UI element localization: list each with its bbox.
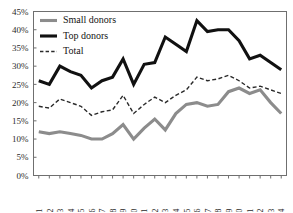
- y-axis-tick-label: 15%: [12, 116, 29, 126]
- line-chart: 0%5%10%15%20%25%30%35%40%45% 19811982198…: [0, 0, 293, 212]
- x-axis-tick-label: 1990: [130, 209, 139, 213]
- series-line-total: [39, 75, 281, 115]
- series-line-small-donors: [39, 88, 281, 139]
- x-axis-tick-label: 1984: [67, 208, 76, 212]
- chart-legend: Small donorsTop donorsTotal: [40, 14, 116, 56]
- x-axis-tick-label: 1992: [151, 209, 160, 213]
- x-axis-tick-label: 1999: [225, 209, 234, 213]
- x-axis-tick-label: 1995: [183, 209, 192, 213]
- y-axis-tick-label: 40%: [12, 25, 29, 35]
- x-axis-tick-label: 1996: [193, 209, 202, 213]
- y-axis-tick-label: 10%: [12, 134, 29, 144]
- x-axis-tick-label: 1989: [119, 209, 128, 213]
- x-axis-tick-label: 2000: [235, 209, 244, 213]
- chart-container: 0%5%10%15%20%25%30%35%40%45% 19811982198…: [0, 0, 293, 212]
- x-axis-tick-label: 1993: [161, 209, 170, 213]
- x-axis-tick-label: 1983: [56, 209, 65, 213]
- x-axis-tick-label: 1982: [46, 209, 55, 213]
- x-axis-tick-label: 1988: [109, 209, 118, 213]
- x-axis-tick-label: 1985: [77, 209, 86, 213]
- y-axis-tick-label: 30%: [12, 61, 29, 71]
- x-axis-tick-label: 1994: [172, 208, 181, 212]
- y-axis-tick-label: 20%: [12, 98, 29, 108]
- legend-label-small-donors: Small donors: [63, 14, 116, 25]
- x-axis-tick-labels: 1981198219831984198519861987198819891990…: [35, 208, 286, 212]
- x-axis-tick-label: 1986: [88, 209, 97, 213]
- y-axis-tick-labels: 0%5%10%15%20%25%30%35%40%45%: [12, 7, 29, 181]
- legend-label-total: Total: [63, 45, 84, 56]
- y-axis-tick-label: 0%: [17, 171, 30, 181]
- x-axis-tick-label: 2003: [267, 209, 276, 213]
- x-axis-tick-label: 2002: [256, 209, 265, 213]
- x-axis-tick-label: 1998: [214, 209, 223, 213]
- x-axis-tick-label: 1997: [204, 209, 213, 213]
- x-axis-tick-label: 1991: [140, 209, 149, 213]
- x-axis-tick-label: 2001: [246, 209, 255, 213]
- y-axis-tick-label: 35%: [12, 43, 29, 53]
- x-axis-tick-label: 1987: [98, 209, 107, 213]
- legend-label-top-donors: Top donors: [63, 30, 108, 41]
- x-axis-tick-label: 2004: [277, 208, 286, 212]
- x-axis-tick-label: 1981: [35, 209, 44, 213]
- y-axis-tick-label: 25%: [12, 80, 29, 90]
- y-axis-tick-label: 5%: [17, 152, 30, 162]
- y-axis-tick-label: 45%: [12, 7, 29, 17]
